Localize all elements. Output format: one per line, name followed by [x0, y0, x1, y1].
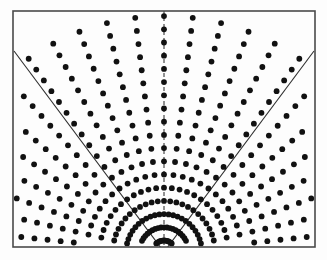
lattice-dot	[161, 158, 167, 164]
radial-dot-lattice-figure	[0, 0, 327, 260]
lattice-dot	[171, 172, 177, 178]
lattice-dot	[284, 113, 290, 119]
lattice-dot	[246, 29, 252, 35]
lattice-dot	[21, 217, 27, 223]
lattice-dot	[173, 200, 179, 206]
lattice-dot	[114, 127, 120, 133]
lattice-dot	[103, 198, 109, 204]
lattice-dot	[155, 198, 161, 204]
lattice-dot	[109, 175, 115, 181]
lattice-dot	[167, 198, 173, 204]
lattice-dot	[161, 198, 167, 204]
lattice-dot	[161, 92, 167, 98]
lattice-dot	[47, 123, 53, 129]
lattice-dot	[277, 190, 283, 196]
lattice-dot	[43, 146, 49, 152]
lattice-dot	[161, 13, 167, 19]
lattice-dot	[207, 226, 213, 232]
lattice-dot	[92, 172, 98, 178]
lattice-dot	[76, 218, 82, 224]
lattice-dot	[301, 178, 307, 184]
lattice-dot	[112, 157, 118, 163]
lattice-dot	[236, 54, 242, 60]
lattice-dot	[177, 120, 183, 126]
lattice-dot	[21, 93, 27, 99]
lattice-dot	[189, 177, 195, 183]
figure-container	[0, 0, 327, 260]
lattice-dot	[127, 211, 133, 217]
lattice-dot	[174, 146, 180, 152]
lattice-dot	[262, 226, 268, 232]
lattice-dot	[237, 232, 243, 238]
lattice-dot	[280, 169, 286, 175]
lattice-dot	[129, 164, 135, 170]
lattice-dot	[41, 77, 47, 83]
lattice-dot	[26, 200, 32, 206]
lattice-dot	[140, 80, 146, 86]
lattice-dot	[247, 191, 253, 197]
lattice-dot	[213, 175, 219, 181]
lattice-dot	[259, 214, 265, 220]
lattice-dot	[60, 226, 66, 232]
lattice-dot	[146, 187, 152, 193]
lattice-dot	[110, 46, 116, 52]
lattice-dot	[119, 221, 125, 227]
lattice-dot	[65, 142, 71, 148]
lattice-dot	[289, 184, 295, 190]
lattice-dot	[248, 152, 254, 158]
lattice-dot	[47, 223, 53, 229]
lattice-dot	[190, 207, 196, 213]
lattice-dot	[281, 77, 287, 83]
lattice-dot	[202, 84, 208, 90]
lattice-dot	[91, 66, 97, 72]
lattice-dot	[231, 172, 237, 178]
lattice-dot	[224, 235, 230, 241]
lattice-dot	[197, 181, 203, 187]
lattice-dot	[86, 142, 92, 148]
lattice-dot	[57, 52, 63, 58]
lattice-dot	[296, 56, 302, 62]
lattice-dot	[51, 209, 57, 215]
lattice-dot	[71, 240, 77, 246]
lattice-dot	[251, 121, 257, 127]
lattice-dot	[39, 113, 45, 119]
lattice-dot	[190, 15, 196, 21]
lattice-dot	[148, 146, 154, 152]
lattice-dot	[185, 54, 191, 60]
lattice-dot	[114, 59, 120, 65]
lattice-dot	[249, 229, 255, 235]
lattice-dot	[213, 115, 219, 121]
lattice-dot	[274, 88, 280, 94]
lattice-dot	[152, 172, 158, 178]
lattice-dot	[53, 176, 59, 182]
lattice-dot	[301, 217, 307, 223]
lattice-dot	[204, 169, 210, 175]
lattice-dot	[123, 216, 129, 222]
lattice-dot	[230, 190, 236, 196]
lattice-dot	[198, 196, 204, 202]
lattice-dot	[34, 220, 40, 226]
lattice-dot	[42, 169, 48, 175]
lattice-dot	[30, 103, 36, 109]
lattice-dot	[214, 213, 220, 219]
lattice-dot	[236, 198, 242, 204]
lattice-dot	[241, 99, 247, 105]
lattice-dot	[271, 209, 277, 215]
lattice-dot	[75, 191, 81, 197]
lattice-dot	[117, 71, 123, 77]
lattice-dot	[204, 201, 210, 207]
lattice-dot	[242, 208, 248, 214]
lattice-dot	[20, 154, 26, 160]
lattice-dot	[53, 155, 59, 161]
lattice-dot	[145, 120, 151, 126]
lattice-dot	[161, 53, 167, 59]
lattice-dot	[185, 204, 191, 210]
lattice-dot	[161, 185, 167, 191]
lattice-dot	[100, 182, 106, 188]
lattice-dot	[240, 181, 246, 187]
lattice-dot	[265, 196, 271, 202]
lattice-dot	[218, 220, 224, 226]
lattice-dot	[79, 132, 85, 138]
lattice-dot	[272, 41, 278, 47]
lattice-dot	[292, 103, 298, 109]
